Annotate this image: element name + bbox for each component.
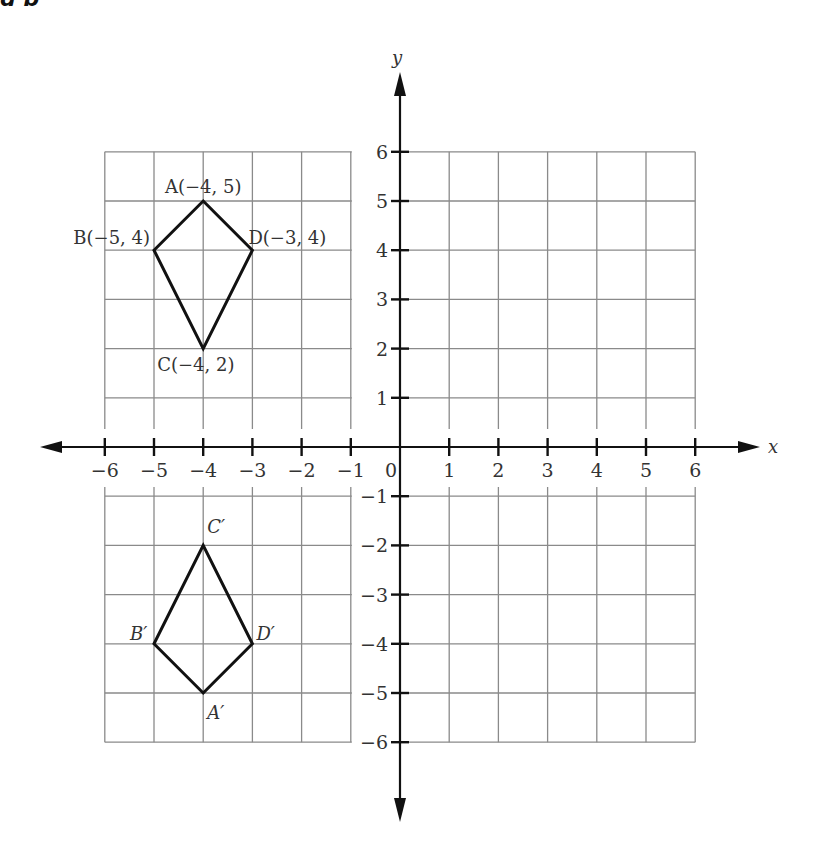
y-tick-label: −2 (360, 534, 388, 556)
y-tick-label: 4 (376, 239, 388, 261)
x-tick-label: −5 (140, 459, 168, 481)
y-tick-label: −5 (360, 682, 388, 704)
x-tick-label: 6 (689, 459, 701, 481)
x-tick-label: 2 (492, 459, 504, 481)
label-b: B(−5, 4) (73, 227, 150, 248)
x-tick-label: −3 (238, 459, 266, 481)
y-tick-label: −1 (360, 485, 388, 507)
x-tick-label: 1 (443, 459, 455, 481)
y-tick-label: 5 (376, 190, 388, 212)
x-axis-label: x (768, 436, 778, 457)
label-a-prime: A′ (205, 702, 224, 723)
x-axis-left-arrow-icon (40, 441, 62, 453)
y-tick-label: 2 (376, 338, 388, 360)
y-axis-up-arrow-icon (394, 72, 406, 96)
y-tick-label: 6 (376, 141, 388, 163)
label-c-prime: C′ (207, 516, 225, 537)
x-tick-label: −6 (91, 459, 119, 481)
y-tick-label: 1 (376, 387, 388, 409)
y-axis-down-arrow-icon (394, 798, 406, 822)
x-tick-label: −2 (288, 459, 316, 481)
x-tick-label: −4 (189, 459, 217, 481)
label-d-prime: D′ (255, 623, 275, 644)
y-tick-label: 3 (376, 288, 388, 310)
x-tick-label: −1 (337, 459, 365, 481)
label-d: D(−3, 4) (248, 227, 326, 248)
x-tick-label: 3 (542, 459, 554, 481)
label-c: C(−4, 2) (157, 354, 234, 375)
x-axis-right-arrow-icon (738, 441, 760, 453)
x-tick-label: 4 (591, 459, 603, 481)
x-tick-label: 5 (640, 459, 652, 481)
y-tick-label: −6 (360, 731, 388, 753)
y-tick-label: −3 (360, 584, 388, 606)
label-b-prime: B′ (129, 623, 147, 644)
origin-label: 0 (385, 459, 397, 481)
coordinate-plane: xy−6−5−4−3−2−10123456654321−1−2−3−4−5−6A… (0, 0, 815, 862)
label-a: A(−4, 5) (164, 176, 241, 197)
y-tick-label: −4 (360, 633, 388, 655)
y-axis-label: y (391, 47, 403, 68)
